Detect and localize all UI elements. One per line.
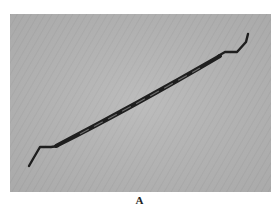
figure-caption: A [0, 194, 279, 206]
instrument-photo [10, 14, 271, 192]
